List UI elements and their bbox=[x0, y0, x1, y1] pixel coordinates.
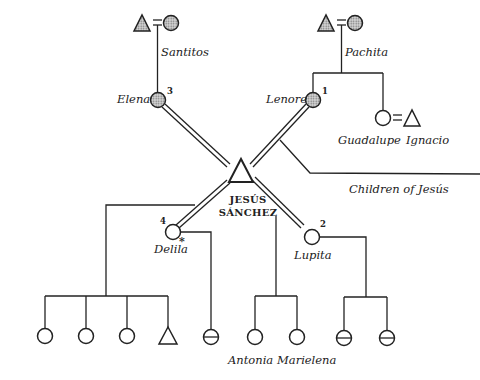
pachita-circle-icon bbox=[348, 16, 363, 31]
grandfather-triangle-icon bbox=[318, 15, 334, 31]
label-marielena: Marielena bbox=[276, 353, 337, 367]
ego-first-name: JESÚS bbox=[228, 194, 266, 205]
lenore-circle-icon bbox=[306, 93, 321, 108]
ego-jesus-sanchez: JESÚS SÁNCHEZ bbox=[219, 159, 278, 218]
order-number: 1 bbox=[322, 86, 328, 96]
label-pachita: Pachita bbox=[344, 45, 388, 59]
santitos-circle-icon bbox=[164, 16, 179, 31]
children-annotation: Children of Jesús bbox=[280, 140, 480, 196]
order-number: 4 bbox=[160, 216, 166, 226]
order-number: 2 bbox=[320, 219, 326, 229]
label-delila: Delila bbox=[153, 242, 188, 256]
santitos-couple: Santitos bbox=[134, 15, 209, 92]
wife-lenore: 1 Lenore bbox=[265, 86, 328, 108]
label-guadalupe: Guadalupe bbox=[338, 133, 401, 147]
label-santitos: Santitos bbox=[161, 45, 209, 59]
label-lupita: Lupita bbox=[293, 248, 332, 262]
label-ignacio: Ignacio bbox=[405, 133, 449, 147]
ignacio-triangle-icon bbox=[404, 110, 420, 126]
wife-delila: 4 * Delila bbox=[153, 216, 188, 256]
kinship-diagram: Santitos Pachita 3 Elena 1 Lenore Guadal… bbox=[0, 0, 480, 380]
daughter-circle-icon bbox=[120, 329, 135, 344]
wife-elena: 3 Elena bbox=[116, 86, 173, 108]
order-number: 3 bbox=[167, 86, 173, 96]
daughter-circle-icon bbox=[38, 329, 53, 344]
ego-last-name: SÁNCHEZ bbox=[219, 207, 278, 218]
children-of-jesus-label: Children of Jesús bbox=[349, 182, 449, 196]
label-antonia: Antonia bbox=[227, 353, 273, 367]
label-elena: Elena bbox=[116, 92, 150, 106]
grandfather-triangle-icon bbox=[134, 15, 150, 31]
daughter-circle-icon bbox=[79, 329, 94, 344]
guadalupe-ignacio-couple: Guadalupe Ignacio bbox=[338, 110, 449, 147]
elena-circle-icon bbox=[151, 93, 166, 108]
lupita-circle-icon bbox=[305, 230, 320, 245]
antonia-circle-icon bbox=[248, 330, 263, 345]
guadalupe-circle-icon bbox=[376, 111, 391, 126]
marielena-circle-icon bbox=[290, 330, 305, 345]
jesus-triangle-icon bbox=[229, 159, 253, 182]
label-lenore: Lenore bbox=[265, 92, 307, 106]
son-triangle-icon bbox=[159, 327, 177, 344]
